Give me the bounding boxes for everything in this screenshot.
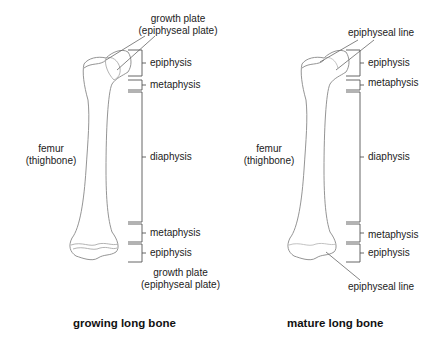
growing-epiphysis-bottom-label: epiphysis bbox=[150, 247, 192, 259]
growing-femur bbox=[70, 50, 131, 259]
bone-name: femur bbox=[24, 143, 78, 155]
mature-caption: mature long bone bbox=[287, 317, 383, 329]
bone-common-name: (thighbone) bbox=[242, 155, 296, 167]
mature-brackets bbox=[346, 50, 364, 262]
growing-bottom-callout: growth plate (epiphyseal plate) bbox=[138, 267, 223, 291]
bone-common-name: (thighbone) bbox=[24, 155, 78, 167]
callout-line-1: growth plate bbox=[138, 13, 218, 25]
growing-metaphysis-top-label: metaphysis bbox=[150, 79, 201, 91]
growing-metaphysis-bottom-label: metaphysis bbox=[150, 227, 201, 239]
mature-metaphysis-bottom-label: metaphysis bbox=[368, 229, 419, 241]
callout-line-2: (epiphyseal plate) bbox=[138, 25, 218, 37]
growing-brackets bbox=[128, 50, 146, 262]
mature-diaphysis-label: diaphysis bbox=[368, 151, 410, 163]
callout-line-1: growth plate bbox=[138, 267, 223, 279]
mature-bone-label: femur (thighbone) bbox=[242, 143, 296, 167]
growing-diaphysis-label: diaphysis bbox=[150, 151, 192, 163]
mature-top-callout: epiphyseal line bbox=[348, 27, 414, 39]
mature-bottom-callout: epiphyseal line bbox=[348, 281, 414, 293]
growing-caption: growing long bone bbox=[73, 317, 176, 329]
mature-femur bbox=[288, 50, 349, 259]
mature-epiphysis-bottom-label: epiphysis bbox=[368, 247, 410, 259]
growing-epiphysis-top-label: epiphysis bbox=[150, 57, 192, 69]
bone-name: femur bbox=[242, 143, 296, 155]
mature-epiphysis-top-label: epiphysis bbox=[368, 57, 410, 69]
callout-line-2: (epiphyseal plate) bbox=[138, 279, 223, 291]
growing-top-callout: growth plate (epiphyseal plate) bbox=[138, 13, 218, 37]
mature-metaphysis-top-label: metaphysis bbox=[368, 77, 419, 89]
growing-bone-label: femur (thighbone) bbox=[24, 143, 78, 167]
